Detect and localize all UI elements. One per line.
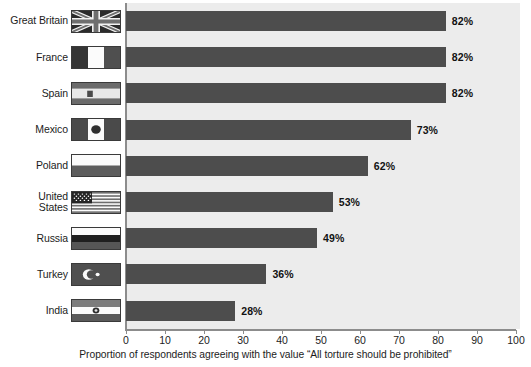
category-label-turkey: Turkey bbox=[0, 256, 68, 292]
bar-row: India28% bbox=[0, 293, 531, 329]
flag-great-britain-icon bbox=[71, 10, 121, 33]
bar bbox=[126, 228, 317, 248]
bar bbox=[126, 301, 235, 321]
x-axis-title: Proportion of respondents agreeing with … bbox=[0, 349, 531, 360]
category-label-spain: Spain bbox=[0, 75, 68, 111]
category-label-india: India bbox=[0, 293, 68, 329]
x-axis-tick-label: 90 bbox=[471, 334, 483, 346]
bar-value-label: 53% bbox=[339, 192, 360, 212]
flag-mexico-icon bbox=[71, 118, 121, 141]
bar bbox=[126, 120, 411, 140]
x-axis-tick-label: 70 bbox=[393, 334, 405, 346]
flag-spain-icon bbox=[71, 82, 121, 105]
x-axis-tick-label: 20 bbox=[198, 334, 210, 346]
x-axis-tick-label: 30 bbox=[237, 334, 249, 346]
flag-poland-icon bbox=[71, 154, 121, 177]
x-axis-tick-label: 80 bbox=[432, 334, 444, 346]
bar-row: France82% bbox=[0, 39, 531, 75]
bar bbox=[126, 156, 368, 176]
bar bbox=[126, 83, 446, 103]
category-label-great-britain: Great Britain bbox=[0, 3, 68, 39]
bar-chart: Great Britain82%France82%Spain82%Mexico7… bbox=[0, 0, 531, 367]
x-axis-tick-label: 10 bbox=[159, 334, 171, 346]
bar-row: Great Britain82% bbox=[0, 3, 531, 39]
flag-turkey-icon bbox=[71, 263, 121, 286]
bar-row: Spain82% bbox=[0, 75, 531, 111]
bar-value-label: 49% bbox=[323, 228, 344, 248]
bar-row: Turkey36% bbox=[0, 256, 531, 292]
x-axis-tick-label: 40 bbox=[276, 334, 288, 346]
category-label-russia: Russia bbox=[0, 220, 68, 256]
flag-russia-icon bbox=[71, 227, 121, 250]
category-label-united-states: United States bbox=[0, 184, 68, 220]
bar-value-label: 73% bbox=[417, 120, 438, 140]
category-label-poland: Poland bbox=[0, 148, 68, 184]
bar bbox=[126, 192, 333, 212]
flag-united-states-icon bbox=[71, 191, 121, 214]
category-label-france: France bbox=[0, 39, 68, 75]
x-axis-tick-label: 50 bbox=[315, 334, 327, 346]
bar-row: Poland62% bbox=[0, 148, 531, 184]
bar-value-label: 82% bbox=[452, 83, 473, 103]
flag-france-icon bbox=[71, 46, 121, 69]
x-axis-tick-label: 60 bbox=[354, 334, 366, 346]
bar-value-label: 82% bbox=[452, 47, 473, 67]
bar bbox=[126, 47, 446, 67]
flag-india-icon bbox=[71, 299, 121, 322]
bar-row: Mexico73% bbox=[0, 112, 531, 148]
bar-row: United States53% bbox=[0, 184, 531, 220]
bar bbox=[126, 11, 446, 31]
bar bbox=[126, 264, 266, 284]
category-label-mexico: Mexico bbox=[0, 112, 68, 148]
bar-value-label: 36% bbox=[272, 264, 293, 284]
bar-value-label: 62% bbox=[374, 156, 395, 176]
bar-value-label: 82% bbox=[452, 11, 473, 31]
x-axis-tick-label: 100 bbox=[507, 334, 525, 346]
bar-row: Russia49% bbox=[0, 220, 531, 256]
bar-value-label: 28% bbox=[241, 301, 262, 321]
x-axis-tick-label: 0 bbox=[123, 334, 129, 346]
